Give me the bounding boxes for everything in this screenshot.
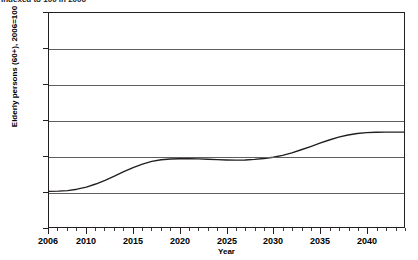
x-tick-label-2040: 2040 [347,236,387,246]
x-tick-minor-2043 [396,228,397,231]
gridline-y-100 [49,193,404,194]
x-tick-mark-2015 [133,228,134,234]
gridline-y-160 [49,85,404,86]
chart-page: Indexed to 100 in 2006 Elderly persons (… [0,0,418,260]
gridline-y-120 [49,157,404,158]
x-tick-minor-2034 [311,228,312,231]
x-tick-minor-2017 [151,228,152,231]
x-tick-mark-2025 [227,228,228,234]
x-tick-minor-2014 [123,228,124,231]
x-tick-minor-2033 [302,228,303,231]
x-tick-minor-2044 [405,228,406,231]
x-tick-mark-2006 [48,228,49,234]
x-tick-minor-2009 [76,228,77,231]
x-tick-minor-2028 [255,228,256,231]
x-tick-minor-2037 [339,228,340,231]
x-tick-minor-2013 [114,228,115,231]
x-tick-label-2030: 2030 [253,236,293,246]
x-tick-minor-2039 [358,228,359,231]
x-tick-minor-2019 [170,228,171,231]
x-tick-mark-2040 [367,228,368,234]
plot-area [48,12,405,228]
x-tick-minor-2021 [189,228,190,231]
x-tick-minor-2026 [236,228,237,231]
series-line-chart [49,13,404,227]
x-tick-minor-2041 [377,228,378,231]
x-tick-minor-2022 [198,228,199,231]
x-tick-minor-2007 [57,228,58,231]
x-tick-minor-2011 [95,228,96,231]
x-tick-minor-2036 [330,228,331,231]
x-tick-label-2020: 2020 [160,236,200,246]
x-axis-title: Year [48,247,405,256]
x-tick-minor-2038 [349,228,350,231]
x-tick-label-2035: 2035 [300,236,340,246]
chart-caption-clip: Indexed to 100 in 2006 [0,0,418,5]
x-tick-label-2015: 2015 [113,236,153,246]
x-tick-mark-2020 [180,228,181,234]
x-tick-mark-2035 [320,228,321,234]
x-tick-minor-2016 [142,228,143,231]
x-tick-minor-2042 [386,228,387,231]
data-series-line [49,132,404,191]
x-tick-minor-2008 [67,228,68,231]
x-tick-minor-2031 [283,228,284,231]
x-tick-label-2010: 2010 [66,236,106,246]
x-tick-minor-2024 [217,228,218,231]
x-tick-minor-2027 [245,228,246,231]
gridline-y-140 [49,121,404,122]
gridline-y-180 [49,49,404,50]
y-axis: Elderly persons (60+), 2006=100 20018016… [0,0,48,260]
x-tick-mark-2010 [86,228,87,234]
x-axis: 20062010201520202025203020352040 [48,228,405,246]
x-tick-minor-2012 [104,228,105,231]
x-tick-label-2025: 2025 [207,236,247,246]
x-tick-minor-2029 [264,228,265,231]
x-tick-minor-2032 [292,228,293,231]
x-tick-minor-2018 [161,228,162,231]
x-tick-mark-2030 [273,228,274,234]
y-axis-title: Elderly persons (60+), 2006=100 [10,0,19,142]
x-tick-minor-2023 [208,228,209,231]
x-tick-label-2006: 2006 [28,236,68,246]
